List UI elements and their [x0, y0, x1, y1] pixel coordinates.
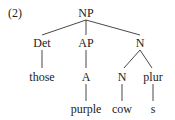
node-ap: AP — [78, 37, 93, 49]
leaf-s: s — [151, 103, 156, 115]
edge-n-plur — [140, 50, 152, 68]
leaf-purple: purple — [71, 103, 102, 115]
node-plur: plur — [143, 71, 162, 83]
edge-np-det — [42, 20, 86, 35]
leaf-those: those — [29, 71, 54, 83]
node-det: Det — [33, 37, 50, 49]
node-a: A — [82, 71, 91, 83]
edge-np-n — [86, 20, 140, 35]
edge-n-n — [124, 50, 140, 68]
node-n-sub: N — [118, 71, 127, 83]
node-n: N — [136, 37, 145, 49]
leaf-cow: cow — [112, 103, 132, 115]
node-np: NP — [78, 7, 93, 19]
